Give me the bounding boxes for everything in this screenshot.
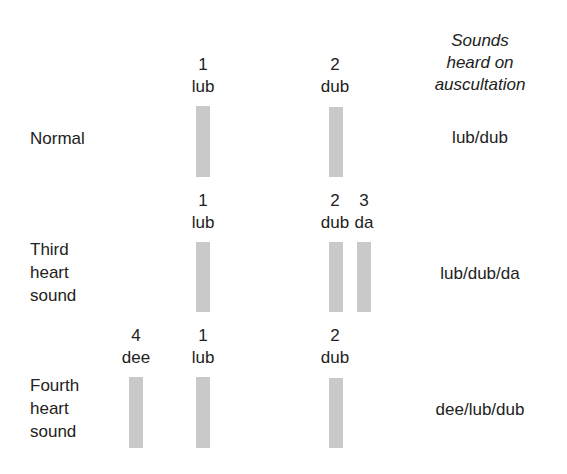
sound-number: 2: [305, 54, 365, 76]
sound-label-s1: 1 lub: [173, 190, 233, 234]
auscultation-result: dee/lub/dub: [410, 399, 550, 421]
sound-number: 1: [173, 325, 233, 347]
row-label-line: Third: [30, 238, 76, 261]
header-line: auscultation: [410, 74, 550, 96]
sound-number: 3: [334, 190, 394, 212]
row-label-line: sound: [30, 420, 79, 443]
sound-number: 1: [173, 54, 233, 76]
sound-name: dub: [305, 76, 365, 98]
row-label-line: heart: [30, 397, 79, 420]
sound-bar-s2: [329, 242, 343, 312]
sound-name: lub: [173, 76, 233, 98]
sound-bar-s4: [129, 377, 143, 448]
sound-name: dub: [305, 347, 365, 369]
sound-bar-s3: [357, 242, 371, 312]
row-label-line: Fourth: [30, 374, 79, 397]
sound-number: 4: [106, 325, 166, 347]
row-label: Third heart sound: [30, 238, 76, 307]
header-line: Sounds: [410, 30, 550, 52]
sound-bar-s2: [329, 378, 343, 448]
sound-label-s1: 1 lub: [173, 54, 233, 98]
sound-label-s2: 2 dub: [305, 54, 365, 98]
sound-number: 1: [173, 190, 233, 212]
row-label-line: heart: [30, 261, 76, 284]
sound-label-s2: 2 dub: [305, 325, 365, 369]
sound-bar-s2: [329, 107, 343, 177]
sound-name: lub: [173, 347, 233, 369]
sound-bar-s1: [196, 242, 210, 312]
sound-name: da: [334, 212, 394, 234]
auscultation-result: lub/dub: [410, 127, 550, 149]
auscultation-result: lub/dub/da: [410, 263, 550, 285]
header-sounds-heard: Sounds heard on auscultation: [410, 30, 550, 96]
row-label-line: sound: [30, 284, 76, 307]
header-line: heard on: [410, 52, 550, 74]
sound-bar-s1: [196, 377, 210, 448]
sound-name: dee: [106, 347, 166, 369]
sound-number: 2: [305, 325, 365, 347]
sound-label-s3: 3 da: [334, 190, 394, 234]
sound-bar-s1: [196, 106, 210, 177]
sound-name: lub: [173, 212, 233, 234]
sound-label-s1: 1 lub: [173, 325, 233, 369]
row-label: Normal: [30, 127, 85, 150]
row-label: Fourth heart sound: [30, 374, 79, 443]
sound-label-s4: 4 dee: [106, 325, 166, 369]
